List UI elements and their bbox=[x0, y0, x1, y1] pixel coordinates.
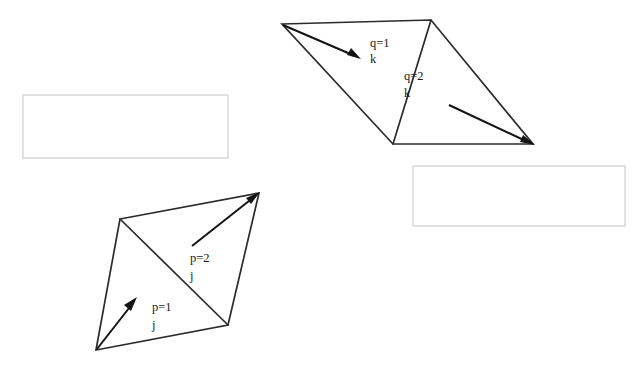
upper-element-group: q=1 k q=2 k bbox=[282, 20, 535, 145]
right-caption-box bbox=[413, 166, 625, 226]
upper-subtriangle-q1: q=1 k bbox=[283, 25, 390, 66]
lower-subtriangle-p1: p=1 j bbox=[97, 297, 172, 349]
q2-label-line1: q=2 bbox=[404, 69, 424, 83]
q1-label-line1: q=1 bbox=[370, 36, 390, 50]
q1-arrow-head-icon bbox=[347, 48, 361, 59]
upper-subtriangle-q2: q=2 k bbox=[404, 69, 535, 145]
q2-label-line2: k bbox=[404, 86, 411, 100]
p2-label-line2: j bbox=[189, 269, 193, 283]
lower-element-group: p=1 j p=2 j bbox=[96, 192, 260, 350]
q1-label-line2: k bbox=[370, 52, 377, 66]
p1-arrow-shaft bbox=[97, 303, 133, 349]
left-caption-box-rect bbox=[23, 95, 228, 158]
left-caption-box bbox=[23, 95, 228, 158]
p2-label-line1: p=2 bbox=[190, 251, 210, 265]
diagram-canvas: q=1 k q=2 k p=1 j bbox=[0, 0, 638, 373]
p1-label-line1: p=1 bbox=[152, 300, 172, 314]
lower-element-diagonal bbox=[120, 219, 228, 325]
q1-arrow-shaft bbox=[283, 25, 355, 56]
p1-label-line2: j bbox=[151, 318, 155, 332]
right-caption-box-rect bbox=[413, 166, 625, 226]
p1-arrow-head-icon bbox=[124, 297, 137, 311]
lower-element-outline bbox=[96, 193, 259, 350]
diagram-svg: q=1 k q=2 k p=1 j bbox=[0, 0, 638, 373]
